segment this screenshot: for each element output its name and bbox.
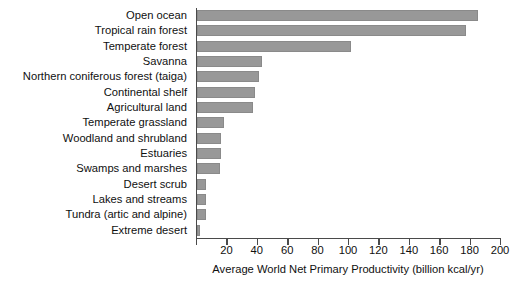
bar: [197, 209, 206, 220]
bar-row: [197, 192, 501, 207]
x-tick-label: 100: [339, 245, 358, 256]
bar: [197, 148, 221, 159]
category-label: Extreme desert: [0, 223, 192, 238]
x-tick-label: 60: [281, 245, 293, 256]
x-axis-title: Average World Net Primary Productivity (…: [196, 264, 500, 275]
bar: [197, 87, 255, 98]
category-label: Tundra (artic and alpine): [0, 207, 192, 222]
category-axis-labels: Open oceanTropical rain forestTemperate …: [0, 8, 192, 238]
bar-row: [197, 54, 501, 69]
category-label: Lakes and streams: [0, 192, 192, 207]
x-tick-label: 160: [430, 245, 449, 256]
category-label: Northern coniferous forest (taiga): [0, 69, 192, 84]
bar-row: [197, 85, 501, 100]
bar: [197, 194, 206, 205]
bar-series: [197, 8, 501, 238]
bar: [197, 25, 466, 36]
bar-row: [197, 100, 501, 115]
plot-area: [196, 8, 501, 239]
category-label: Continental shelf: [0, 85, 192, 100]
bar-chart: Open oceanTropical rain forestTemperate …: [0, 0, 516, 293]
bar: [197, 10, 478, 21]
bar: [197, 56, 262, 67]
category-label: Woodland and shrubland: [0, 131, 192, 146]
bar-row: [197, 177, 501, 192]
bar-row: [197, 115, 501, 130]
bar-row: [197, 23, 501, 38]
bar: [197, 133, 221, 144]
x-axis-ticks: 20406080100120140160180200: [196, 239, 500, 246]
bar: [197, 71, 259, 82]
bar-row: [197, 8, 501, 23]
bar: [197, 102, 253, 113]
bar: [197, 225, 200, 236]
category-label: Agricultural land: [0, 100, 192, 115]
x-tick-label: 80: [311, 245, 323, 256]
x-tick-label: 200: [491, 245, 510, 256]
category-label: Open ocean: [0, 8, 192, 23]
bar-row: [197, 146, 501, 161]
bar-row: [197, 207, 501, 222]
bar: [197, 117, 224, 128]
x-tick-label: 180: [460, 245, 479, 256]
category-label: Desert scrub: [0, 177, 192, 192]
x-tick: [196, 239, 197, 245]
category-label: Swamps and marshes: [0, 161, 192, 176]
category-label: Temperate grassland: [0, 115, 192, 130]
bar-row: [197, 39, 501, 54]
category-label: Savanna: [0, 54, 192, 69]
bar-row: [197, 131, 501, 146]
bar-row: [197, 161, 501, 176]
category-label: Temperate forest: [0, 39, 192, 54]
bar: [197, 163, 220, 174]
bar: [197, 179, 206, 190]
category-label: Tropical rain forest: [0, 23, 192, 38]
x-tick-label: 140: [399, 245, 418, 256]
bar-row: [197, 223, 501, 238]
bar: [197, 41, 351, 52]
category-label: Estuaries: [0, 146, 192, 161]
x-tick-label: 20: [220, 245, 232, 256]
x-tick-label: 40: [251, 245, 263, 256]
x-tick-label: 120: [369, 245, 388, 256]
bar-row: [197, 69, 501, 84]
